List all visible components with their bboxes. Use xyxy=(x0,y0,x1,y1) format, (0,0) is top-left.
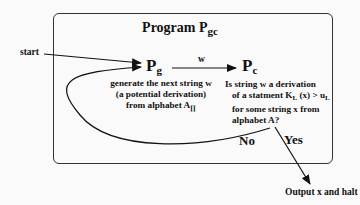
start-arrow xyxy=(44,54,141,63)
generator-node: Pg xyxy=(146,56,162,76)
checker-description: Is string w a derivation of a statment K… xyxy=(225,79,345,126)
no-label: No xyxy=(239,133,255,149)
output-label: Output x and halt xyxy=(285,187,358,197)
yes-label: Yes xyxy=(284,132,303,148)
generator-description: generate the next string w (a potential … xyxy=(101,78,221,114)
start-label: start xyxy=(20,47,39,57)
edge-label-w: w xyxy=(198,54,205,64)
checker-node: Pc xyxy=(242,56,257,76)
diagram-title: Program Pgc xyxy=(0,20,360,37)
